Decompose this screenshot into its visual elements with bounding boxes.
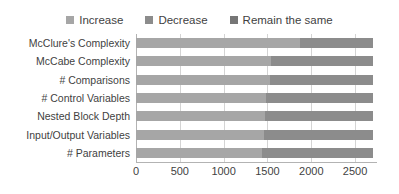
legend-item-increase[interactable]: Increase — [66, 14, 123, 27]
legend-label-remain-the-same: Remain the same — [243, 14, 333, 27]
bar-segment[interactable] — [136, 75, 270, 85]
bar-segment[interactable] — [136, 93, 266, 103]
plot-area — [136, 34, 377, 162]
legend-swatch-decrease — [145, 16, 153, 24]
bar-segment[interactable] — [136, 56, 271, 66]
x-axis-tick-label: 0 — [133, 164, 139, 178]
stacked-bar-chart: Increase Decrease Remain the same McClur… — [0, 0, 399, 194]
bar-segment[interactable] — [136, 38, 300, 48]
bar-row[interactable] — [136, 93, 377, 103]
bar-segment[interactable] — [262, 148, 373, 158]
bar-row[interactable] — [136, 56, 377, 66]
y-axis-category-labels: McClure's ComplexityMcCabe Complexity# C… — [0, 34, 133, 162]
x-axis-tick-label: 2000 — [299, 164, 323, 178]
x-axis-tick-label: 1500 — [255, 164, 279, 178]
x-axis-tick-label: 2500 — [343, 164, 367, 178]
y-axis-category-label: Input/Output Variables — [26, 129, 133, 141]
y-axis-category-label: Nested Block Depth — [37, 110, 133, 122]
legend-swatch-increase — [66, 16, 74, 24]
x-axis-tick-label: 1000 — [211, 164, 235, 178]
y-axis-category-label: McCabe Complexity — [36, 55, 133, 67]
y-axis-category-label: # Control Variables — [41, 92, 133, 104]
bar-segment[interactable] — [266, 93, 373, 103]
bar-segment[interactable] — [264, 130, 374, 140]
plot-area-wrapper: McClure's ComplexityMcCabe Complexity# C… — [0, 34, 399, 162]
x-axis-line — [136, 162, 377, 163]
y-axis-category-label: McClure's Complexity — [29, 37, 133, 49]
bar-row[interactable] — [136, 38, 377, 48]
y-axis-category-label: # Parameters — [67, 147, 133, 159]
bar-segment[interactable] — [265, 111, 374, 121]
bar-row[interactable] — [136, 75, 377, 85]
y-axis-category-label: # Comparisons — [59, 74, 133, 86]
bar-segment[interactable] — [136, 111, 265, 121]
bar-segment[interactable] — [271, 56, 373, 66]
bar-row[interactable] — [136, 111, 377, 121]
bar-segment[interactable] — [136, 130, 264, 140]
bar-segment[interactable] — [300, 38, 374, 48]
bar-row[interactable] — [136, 130, 377, 140]
legend-label-decrease: Decrease — [158, 14, 207, 27]
bar-segment[interactable] — [270, 75, 373, 85]
bar-segment[interactable] — [136, 148, 262, 158]
bar-series-container — [136, 34, 377, 162]
legend-item-remain-the-same[interactable]: Remain the same — [230, 14, 333, 27]
legend-item-decrease[interactable]: Decrease — [145, 14, 207, 27]
legend-swatch-remain-the-same — [230, 16, 238, 24]
bar-row[interactable] — [136, 148, 377, 158]
chart-legend: Increase Decrease Remain the same — [0, 11, 399, 29]
x-axis-tick-labels: 05001000150020002500 — [0, 164, 399, 182]
x-axis-tick-label: 500 — [171, 164, 189, 178]
legend-label-increase: Increase — [79, 14, 123, 27]
